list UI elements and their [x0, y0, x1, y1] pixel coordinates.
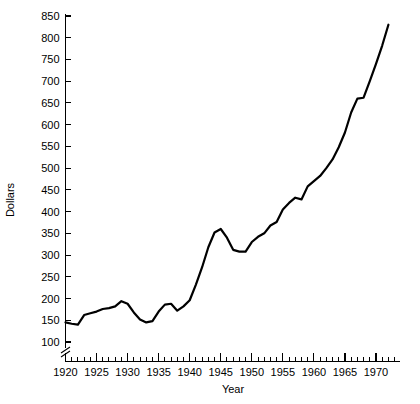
- x-tick-label: 1950: [240, 366, 264, 378]
- y-tick-label: 500: [41, 162, 59, 174]
- y-tick-label: 700: [41, 75, 59, 87]
- y-axis-title: Dollars: [4, 182, 16, 217]
- x-axis-major-ticks: [66, 353, 377, 362]
- x-tick-label: 1955: [271, 366, 295, 378]
- x-tick-label: 1930: [115, 366, 139, 378]
- x-axis: 1920192519301935194019451950195519601965…: [53, 353, 400, 378]
- y-tick-label: 350: [41, 227, 59, 239]
- x-tick-label: 1920: [53, 366, 77, 378]
- y-axis-tick-labels: 1001502002503003504004505005506006507007…: [41, 10, 59, 348]
- y-tick-label: 650: [41, 97, 59, 109]
- y-tick-label: 750: [41, 53, 59, 65]
- x-axis-title: Year: [222, 383, 245, 395]
- x-tick-label: 1935: [146, 366, 170, 378]
- x-tick-label: 1925: [84, 366, 108, 378]
- data-series-line: [66, 25, 389, 325]
- y-tick-label: 100: [41, 336, 59, 348]
- x-tick-label: 1960: [302, 366, 326, 378]
- x-axis-tick-labels: 1920192519301935194019451950195519601965…: [53, 366, 388, 378]
- x-tick-label: 1970: [364, 366, 388, 378]
- y-tick-label: 850: [41, 10, 59, 22]
- y-tick-label: 600: [41, 119, 59, 131]
- x-axis-minor-ticks: [72, 357, 395, 362]
- y-tick-label: 250: [41, 271, 59, 283]
- y-tick-label: 150: [41, 314, 59, 326]
- x-tick-label: 1945: [209, 366, 233, 378]
- chart-container: 1001502002503003504004505005506006507007…: [0, 0, 420, 404]
- y-tick-label: 200: [41, 293, 59, 305]
- x-tick-label: 1940: [177, 366, 201, 378]
- y-tick-label: 300: [41, 249, 59, 261]
- x-tick-label: 1965: [333, 366, 357, 378]
- y-tick-label: 400: [41, 206, 59, 218]
- y-tick-label: 450: [41, 184, 59, 196]
- y-tick-label: 800: [41, 32, 59, 44]
- y-axis-ticks: [66, 16, 71, 342]
- y-axis: 1001502002503003504004505005506006507007…: [41, 10, 70, 357]
- line-chart: 1001502002503003504004505005506006507007…: [0, 0, 420, 404]
- y-tick-label: 550: [41, 140, 59, 152]
